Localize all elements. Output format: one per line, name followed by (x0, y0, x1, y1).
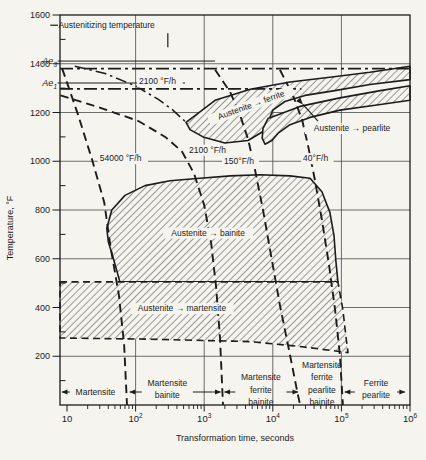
rate-label-rate-150: 150°F/h (224, 156, 254, 166)
x-axis-title: Transformation time, seconds (176, 433, 295, 443)
region-label-bainite-group: Austenite → bainite (163, 228, 253, 239)
zone-label-line: bainite (155, 390, 180, 400)
zone-label-line: Martensite (147, 378, 187, 388)
rate-label-rate-40-group: 40°F/h (301, 153, 334, 164)
y-tick-label: 1600 (30, 10, 50, 20)
rate-label-rate-40: 40°F/h (303, 153, 328, 163)
zone-label-line: pearlite (308, 385, 336, 395)
y-tick-label: 400 (35, 303, 50, 313)
rate-label-rate-54000-group: 54000 °F/h (98, 153, 148, 164)
y-axis-title: Temperature, °F (5, 195, 15, 260)
rate-label-rate-150-group: 150°F/h (222, 156, 259, 167)
rate-label-rate-54000: 54000 °F/h (100, 153, 142, 163)
zone-label-line: Martensite (76, 387, 116, 397)
pearlite-pointer-label-group: Austenite → pearlite (305, 123, 399, 134)
zone-label-line: bainite (309, 397, 334, 407)
region-label-martensite-group: Austenite → martensite (130, 303, 233, 314)
zone-label-line: Ferrite (364, 378, 389, 388)
austenitizing-label: Austenitizing temperature (58, 20, 155, 30)
region-label-martensite: Austenite → martensite (138, 303, 227, 313)
zone-label-line: Martensite (302, 360, 342, 370)
ttt-cct-diagram-figure: Ae3Ae1Austenite → ferriteAustenite → bai… (0, 0, 426, 460)
transformation-diagram-chart: Ae3Ae1Austenite → ferriteAustenite → bai… (0, 0, 426, 460)
x-tick-superscript: 5 (345, 412, 349, 419)
y-tick-label: 1000 (30, 156, 50, 166)
x-tick-superscript: 3 (208, 412, 212, 419)
Ae1-subscript: 1 (53, 83, 57, 90)
x-tick-superscript: 2 (139, 412, 143, 419)
y-tick-label: 1400 (30, 59, 50, 69)
x-tick-label: 10 (62, 413, 73, 424)
y-tick-label: 600 (35, 254, 50, 264)
rate-label-rate-2100: 2100 °F/h (189, 145, 226, 155)
pearlite-pointer-label: Austenite → pearlite (314, 123, 391, 133)
rate-label-upper-2100: 2100 °F/h (139, 76, 176, 86)
x-tick-superscript: 4 (276, 412, 280, 419)
zone-label-line: Martensite (241, 372, 281, 382)
y-tick-label: 1200 (30, 108, 50, 118)
region-label-bainite: Austenite → bainite (171, 228, 245, 238)
y-tick-label: 800 (35, 205, 50, 215)
zone-label-line: bainite (248, 397, 273, 407)
rate-label-upper-2100-group: 2100 °F/h (137, 76, 183, 87)
rate-label-rate-2100-group: 2100 °F/h (187, 145, 233, 156)
zone-label-line: ferrite (250, 385, 272, 395)
austenitizing-label-group: Austenitizing temperature (58, 20, 155, 30)
x-tick-superscript: 6 (413, 412, 417, 419)
zone-label-line: ferrite (311, 372, 333, 382)
y-tick-label: 200 (35, 351, 50, 361)
zone-label-line: pearlite (362, 390, 390, 400)
